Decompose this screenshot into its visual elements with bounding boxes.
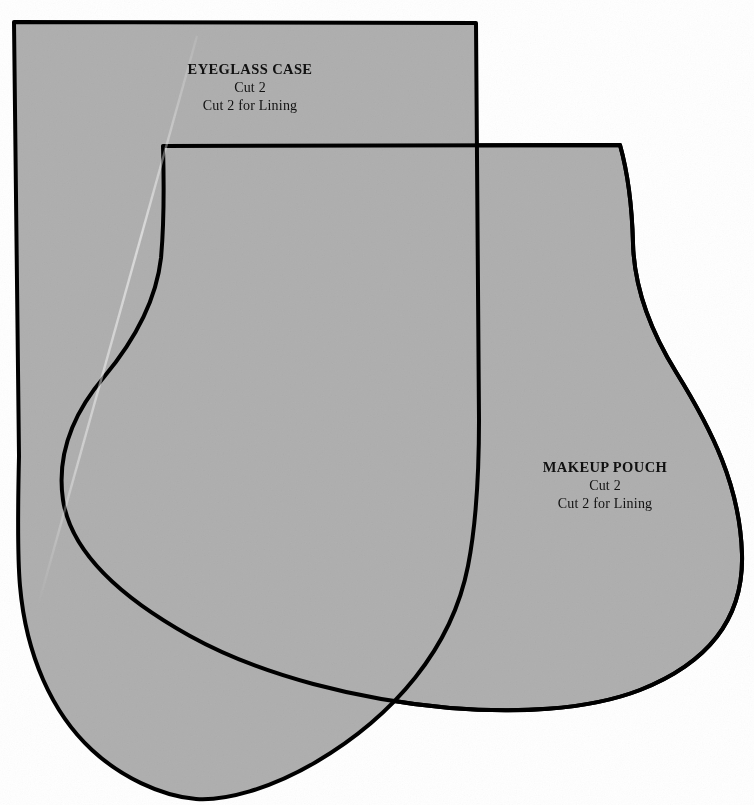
makeup-pouch-cut-line-1: Cut 2 (485, 477, 725, 495)
pattern-canvas (0, 0, 754, 805)
label-eyeglass-case: EYEGLASS CASE Cut 2 Cut 2 for Lining (130, 60, 370, 115)
pattern-sheet: EYEGLASS CASE Cut 2 Cut 2 for Lining MAK… (0, 0, 754, 805)
makeup-pouch-title: MAKEUP POUCH (485, 458, 725, 477)
label-makeup-pouch: MAKEUP POUCH Cut 2 Cut 2 for Lining (485, 458, 725, 513)
eyeglass-case-title: EYEGLASS CASE (130, 60, 370, 79)
makeup-pouch-cut-line-2: Cut 2 for Lining (485, 495, 725, 513)
eyeglass-case-cut-line-1: Cut 2 (130, 79, 370, 97)
pattern-piece-eyeglass-case[interactable] (14, 22, 479, 799)
eyeglass-case-cut-line-2: Cut 2 for Lining (130, 97, 370, 115)
